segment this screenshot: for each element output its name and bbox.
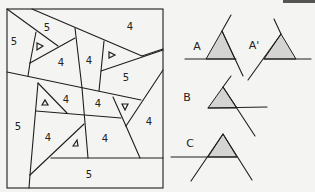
diagram-c: C (171, 134, 252, 181)
cell-label: 4 (58, 57, 64, 68)
cell-label: 4 (127, 21, 133, 32)
triangle-marker-icon (122, 104, 128, 110)
cell-label: 5 (11, 36, 17, 47)
triangle-marker-icon (73, 140, 78, 146)
cell-label: 5 (86, 169, 92, 180)
cell-label: 5 (44, 22, 50, 33)
cell-label: 4 (63, 94, 69, 105)
shaded-triangle (206, 31, 235, 59)
diagram-label: A' (249, 39, 260, 52)
triangle-marker-icon (109, 52, 115, 58)
triangle-marker-icon (37, 43, 43, 50)
diagram-label: C (186, 137, 194, 150)
shaded-triangle (208, 87, 237, 108)
shaded-triangle (264, 34, 296, 59)
tiling-border (7, 9, 163, 188)
diagram-a: A (185, 15, 243, 76)
figure: 5 5 4 4 4 5 4 4 5 4 4 4 5 (0, 0, 315, 192)
cell-label: 5 (15, 121, 21, 132)
diagram-label: B (183, 91, 191, 104)
tiling-lines (7, 9, 163, 188)
cell-label: 4 (95, 98, 101, 109)
figure-canvas: 5 5 4 4 4 5 4 4 5 4 4 4 5 (0, 0, 315, 192)
cell-label: 5 (123, 72, 129, 83)
cell-label: 4 (86, 55, 92, 66)
diagram-a-prime: A' (248, 19, 311, 80)
cell-label: 4 (146, 116, 152, 127)
cell-label: 4 (102, 133, 108, 144)
shaded-triangle (208, 134, 237, 157)
cell-label: 4 (45, 132, 51, 143)
illustrations-panel: A A' B (171, 15, 311, 181)
diagram-b: B (183, 76, 267, 136)
triangle-marker-icon (42, 100, 48, 105)
diagram-label: A (193, 40, 201, 53)
tiling-panel: 5 5 4 4 4 5 4 4 5 4 4 4 5 (7, 9, 163, 188)
